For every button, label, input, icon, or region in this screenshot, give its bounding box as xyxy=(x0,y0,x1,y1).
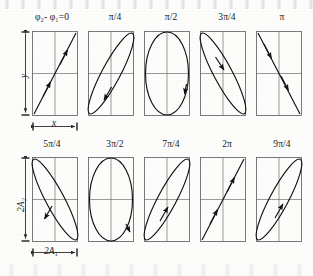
figure-canvas xyxy=(0,0,313,276)
dimension-arrow-x-bottom xyxy=(33,249,77,257)
lissajous-figure: φ₂- φ₁=0 π/4 π/2 3π/4 π 5π/4 3π/2 7π/4 2… xyxy=(0,0,313,276)
panel-crosshairs-row1 xyxy=(33,32,302,116)
dimension-arrow-x-top xyxy=(33,123,77,131)
panel-crosshairs-row2 xyxy=(33,158,302,242)
dimension-arrow-y-top xyxy=(22,32,30,115)
dimension-arrow-y-bottom xyxy=(22,158,30,241)
